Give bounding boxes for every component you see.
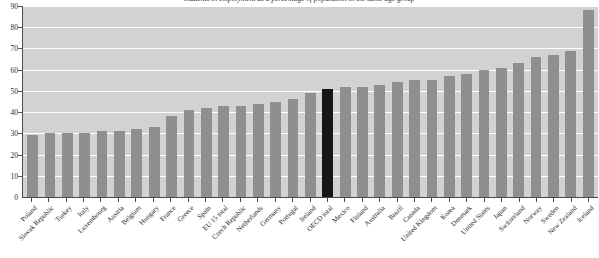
x-tick-label: Norway: [522, 204, 544, 226]
x-tick-mark: [310, 198, 311, 202]
bar-slot: [180, 6, 197, 197]
chart-title: Students in employment as a percentage o…: [0, 0, 599, 3]
bar[interactable]: [392, 82, 403, 197]
x-tick-mark: [344, 198, 345, 202]
bar-slot: [76, 6, 93, 197]
bar-slot: [302, 6, 319, 197]
bar-slot: [24, 6, 41, 197]
x-tick-label: Turkey: [53, 204, 73, 224]
bar-slot: [111, 6, 128, 197]
x-tick-mark: [292, 198, 293, 202]
bar-slot: [284, 6, 301, 197]
x-tick-label-text: Norway: [522, 204, 544, 226]
x-tick-label-text: Greece: [175, 204, 195, 224]
y-tick-label: 90: [11, 2, 19, 11]
x-tick-mark: [362, 198, 363, 202]
bar[interactable]: [479, 70, 490, 197]
bar[interactable]: [444, 76, 455, 197]
y-tick-label: 50: [11, 86, 19, 95]
bar[interactable]: [322, 89, 333, 197]
bar[interactable]: [131, 129, 142, 197]
x-tick-mark: [449, 198, 450, 202]
bar-slot: [198, 6, 215, 197]
bar[interactable]: [27, 135, 38, 197]
x-tick-mark: [466, 198, 467, 202]
bar[interactable]: [565, 51, 576, 197]
x-tick-mark: [553, 198, 554, 202]
bar-slot: [232, 6, 249, 197]
bar-slot: [441, 6, 458, 197]
x-tick-mark: [135, 198, 136, 202]
x-tick-mark: [414, 198, 415, 202]
bar[interactable]: [513, 63, 524, 197]
y-tick-label: 70: [11, 44, 19, 53]
x-tick-label: Mexico: [331, 204, 352, 225]
bar-slot: [354, 6, 371, 197]
x-tick-label-text: Turkey: [53, 204, 73, 224]
bar[interactable]: [201, 108, 212, 197]
x-tick-mark: [397, 198, 398, 202]
bar[interactable]: [461, 74, 472, 197]
bar-slot: [267, 6, 284, 197]
x-tick-mark: [327, 198, 328, 202]
bars-container: [23, 6, 598, 197]
x-tick-mark: [118, 198, 119, 202]
bar-slot: [545, 6, 562, 197]
plot-area: [22, 6, 598, 198]
bar-slot: [527, 6, 544, 197]
bar-chart: Students in employment as a percentage o…: [0, 0, 599, 258]
x-tick-mark: [431, 198, 432, 202]
bar[interactable]: [374, 85, 385, 197]
x-tick-mark: [48, 198, 49, 202]
bar[interactable]: [340, 87, 351, 197]
bar-slot: [250, 6, 267, 197]
x-tick-mark: [66, 198, 67, 202]
x-tick-mark: [240, 198, 241, 202]
bar-slot: [406, 6, 423, 197]
bar[interactable]: [166, 116, 177, 197]
x-tick-label-text: France: [159, 204, 178, 223]
x-axis: PolandSlovak RepublicTurkeyItalyLuxembou…: [22, 198, 597, 258]
x-tick-label: Greece: [175, 204, 195, 224]
y-tick-label: 80: [11, 23, 19, 32]
x-tick-label: Iceland: [576, 204, 596, 224]
bar[interactable]: [270, 102, 281, 198]
bar[interactable]: [583, 10, 594, 197]
bar[interactable]: [236, 106, 247, 197]
bar[interactable]: [97, 131, 108, 197]
bar[interactable]: [114, 131, 125, 197]
bar-slot: [319, 6, 336, 197]
x-tick-mark: [257, 198, 258, 202]
bar[interactable]: [409, 80, 420, 197]
x-tick-label: France: [159, 204, 178, 223]
bar[interactable]: [357, 87, 368, 197]
x-tick-mark: [571, 198, 572, 202]
x-tick-mark: [501, 198, 502, 202]
bar[interactable]: [79, 133, 90, 197]
bar[interactable]: [548, 55, 559, 197]
x-tick-mark: [275, 198, 276, 202]
bar[interactable]: [218, 106, 229, 197]
bar[interactable]: [288, 99, 299, 197]
bar[interactable]: [149, 127, 160, 197]
x-tick-label-text: Mexico: [331, 204, 352, 225]
bar-slot: [215, 6, 232, 197]
x-tick-mark: [83, 198, 84, 202]
x-tick-mark: [153, 198, 154, 202]
bar-slot: [93, 6, 110, 197]
bar-slot: [59, 6, 76, 197]
x-tick-mark: [205, 198, 206, 202]
bar[interactable]: [45, 133, 56, 197]
bar-slot: [475, 6, 492, 197]
bar[interactable]: [253, 104, 264, 197]
bar[interactable]: [184, 110, 195, 197]
bar[interactable]: [496, 68, 507, 197]
bar[interactable]: [62, 133, 73, 197]
bar[interactable]: [531, 57, 542, 197]
y-axis: 0102030405060708090: [0, 0, 22, 200]
bar[interactable]: [427, 80, 438, 197]
bar[interactable]: [305, 93, 316, 197]
x-tick-mark: [222, 198, 223, 202]
bar-slot: [493, 6, 510, 197]
y-tick-label: 60: [11, 65, 19, 74]
